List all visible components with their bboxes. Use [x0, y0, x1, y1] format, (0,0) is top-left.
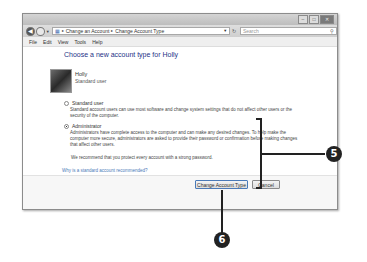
title-bar[interactable]: – □ ✕ [23, 14, 337, 25]
menu-help[interactable]: Help [92, 39, 102, 45]
administrator-radio[interactable] [64, 124, 69, 129]
minimize-button[interactable]: – [298, 15, 308, 24]
breadcrumb-separator-icon: ▸ [111, 27, 113, 35]
why-standard-account-link[interactable]: Why is a standard account recommended? [62, 168, 148, 173]
back-button[interactable]: ◀ [26, 27, 35, 36]
address-row: ◀ ▼ ▦ ▸ Change an Account ▸ Change Accou… [23, 25, 337, 37]
recent-pages-dropdown-icon[interactable]: ▼ [46, 29, 50, 34]
button-bar: Change Account Type Cancel [23, 175, 337, 209]
administrator-label: Administrator [72, 123, 101, 129]
standard-user-label: Standard user [72, 100, 103, 106]
address-dropdown-icon[interactable]: ▼ [223, 27, 227, 35]
control-panel-icon: ▦ [55, 27, 60, 35]
administrator-description: Administrators have complete access to t… [70, 130, 306, 148]
standard-user-radio[interactable] [64, 101, 69, 106]
callout-6: 6 [214, 232, 230, 248]
callout-5: 5 [326, 146, 342, 162]
refresh-icon: ↻ [232, 28, 236, 34]
menu-edit[interactable]: Edit [43, 39, 52, 45]
back-arrow-icon: ◀ [28, 28, 33, 34]
change-account-type-window: – □ ✕ ◀ ▼ ▦ ▸ Change an Account ▸ Change… [22, 13, 338, 210]
menu-tools[interactable]: Tools [74, 39, 86, 45]
password-recommendation: We recommend that you protect every acco… [71, 155, 213, 160]
content-area: Choose a new account type for Holly Holl… [23, 47, 337, 209]
page-title: Choose a new account type for Holly [64, 51, 178, 58]
user-account-type: Standard user [75, 78, 106, 84]
change-account-type-button[interactable]: Change Account Type [195, 180, 248, 189]
standard-user-description: Standard account users can use most soft… [70, 107, 306, 119]
menu-view[interactable]: View [58, 39, 69, 45]
address-bar[interactable]: ▦ ▸ Change an Account ▸ Change Account T… [52, 27, 230, 35]
search-input[interactable]: Search ⚲ [240, 27, 337, 35]
search-placeholder: Search [243, 28, 330, 34]
user-name: Holly [75, 71, 87, 77]
search-icon[interactable]: ⚲ [330, 28, 334, 34]
breadcrumb-separator-icon: ▸ [62, 27, 64, 35]
administrator-option[interactable]: Administrator [64, 123, 101, 129]
refresh-button[interactable]: ↻ [230, 28, 238, 34]
caption-buttons: – □ ✕ [297, 15, 334, 24]
breadcrumb-change-account-type[interactable]: Change Account Type [115, 27, 164, 35]
menu-bar: File Edit View Tools Help [23, 37, 337, 47]
user-avatar [50, 69, 72, 93]
breadcrumb-change-an-account[interactable]: Change an Account [66, 27, 110, 35]
callout-leader-line [262, 153, 325, 155]
callout-leader-line [221, 190, 223, 233]
menu-file[interactable]: File [29, 39, 37, 45]
forward-button[interactable] [36, 27, 45, 36]
standard-user-option[interactable]: Standard user [64, 100, 103, 106]
close-button[interactable]: ✕ [320, 15, 334, 24]
maximize-button[interactable]: □ [309, 15, 319, 24]
